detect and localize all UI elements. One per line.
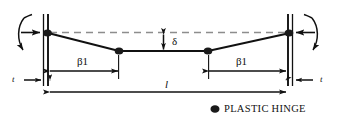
beta1-right-dimension	[209, 55, 286, 79]
deflection-delta-label: δ	[172, 36, 177, 47]
beta1-left-label: β1	[77, 56, 88, 67]
span-length-label: l	[165, 79, 168, 90]
legend-label: PLASTIC HINGE	[224, 104, 306, 115]
thickness-right-label: t	[320, 75, 323, 84]
thickness-left-label: t	[12, 75, 15, 84]
wall-right	[288, 14, 293, 86]
wall-left	[44, 14, 49, 86]
plastic-hinge-marker-icon	[211, 105, 220, 113]
plastic-hinge-inner-left	[115, 48, 124, 55]
plastic-hinge-support-left	[43, 30, 52, 37]
deformed-beam-profile	[48, 33, 290, 51]
plastic-hinge-support-right	[285, 30, 294, 37]
plastic-hinge-inner-right	[204, 48, 213, 55]
beta1-right-label: β1	[236, 56, 247, 67]
figure-container: β1 β1 δ l t t PLASTIC HINGE	[0, 0, 337, 124]
